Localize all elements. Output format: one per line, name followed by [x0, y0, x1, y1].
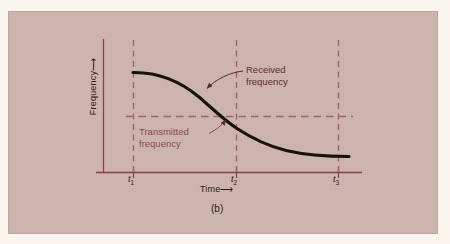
x-tick-label-t2-sub: 2	[234, 179, 238, 186]
x-axis-label-text: Time	[200, 184, 220, 194]
x-tick-label-t3: t3	[333, 174, 339, 186]
y-axis-label-text: Frequency	[88, 71, 98, 115]
x-tick-label-t1: t1	[128, 174, 134, 186]
annotation-transmitted-line1: Transmitted	[139, 126, 189, 138]
x-axis-label: Time⟶	[200, 184, 232, 194]
annotation-transmitted-line2: frequency	[139, 138, 189, 150]
vertical-marker-lines	[134, 40, 339, 172]
x-tick-label-t2: t2	[231, 174, 237, 186]
figure-caption: (b)	[211, 203, 223, 214]
y-axis-label: Frequency⟶	[88, 52, 98, 122]
x-tick-label-t3-sub: 3	[336, 179, 340, 186]
figure-root: Received frequency Transmitted frequency…	[0, 0, 450, 244]
annotation-transmitted-frequency: Transmitted frequency	[139, 126, 189, 149]
y-axis-arrow-icon: ⟶	[88, 59, 98, 71]
x-tick-label-t1-sub: 1	[131, 179, 135, 186]
axis-lines	[96, 39, 362, 173]
annotation-received-frequency: Received frequency	[246, 64, 288, 87]
annotation-received-line2: frequency	[246, 76, 288, 88]
received-leader-line	[207, 71, 243, 89]
annotation-received-line1: Received	[246, 64, 288, 76]
plot-canvas	[0, 0, 450, 244]
transmitted-leader-line	[209, 120, 226, 134]
